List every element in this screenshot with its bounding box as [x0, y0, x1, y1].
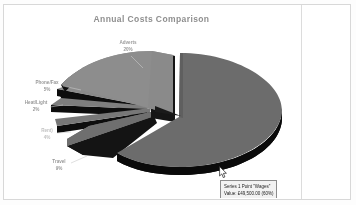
label-heat-light: Heat/Light 2% [11, 99, 61, 113]
label-heat-light-pct: 2% [11, 106, 61, 113]
label-phone-fax-pct: 5% [21, 86, 73, 93]
label-phone-fax-name: Phone/Fax [35, 80, 58, 85]
label-travel-name: Travel [52, 159, 65, 164]
label-rent: Rent) 4% [27, 127, 67, 141]
label-heat-light-name: Heat/Light [25, 100, 47, 105]
datapoint-tooltip: Series 1 Point "Wages" Value: £49,500.00… [220, 180, 277, 198]
label-adverts: Adverts 20% [103, 39, 153, 53]
pie-chart[interactable]: Annual Costs Comparison [5, 6, 298, 198]
label-rent-pct: 4% [27, 134, 67, 141]
label-adverts-pct: 20% [103, 46, 153, 53]
mouse-cursor-icon [219, 166, 228, 179]
label-adverts-name: Adverts [119, 40, 136, 45]
label-phone-fax: Phone/Fax 5% [21, 79, 73, 93]
screenshot-root: Annual Costs Comparison [0, 0, 356, 205]
label-travel: Travel 9% [37, 158, 81, 172]
column-divider [301, 5, 302, 199]
label-rent-name: Rent) [41, 128, 53, 133]
tooltip-series-line: Series 1 Point "Wages" [224, 183, 273, 191]
label-travel-pct: 9% [37, 165, 81, 172]
tooltip-value-line: Value: £49,500.00 (60%) [224, 190, 273, 198]
